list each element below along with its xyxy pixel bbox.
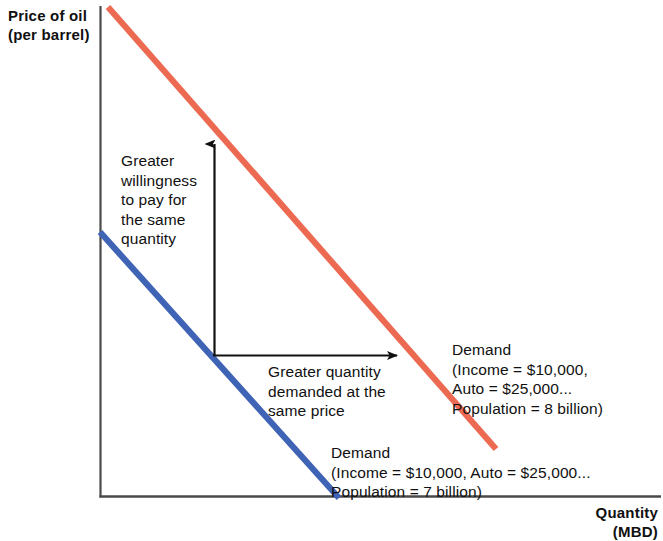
chart-figure: Price of oil (per barrel) Quantity (MBD)… [0,0,663,541]
curve-label-demand-shifted: Demand (Income = $10,000, Auto = $25,000… [452,340,603,418]
annotation-greater-quantity-demanded: Greater quantity demanded at the same pr… [268,362,386,421]
annotation-greater-willingness-to-pay: Greater willingness to pay for the same … [121,151,197,249]
curve-label-demand-original: Demand (Income = $10,000, Auto = $25,000… [331,443,591,502]
x-axis-title: Quantity (MBD) [560,503,658,541]
y-axis-title: Price of oil (per barrel) [8,6,90,44]
